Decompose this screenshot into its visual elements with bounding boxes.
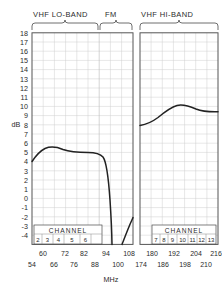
x-tick-lower: 88 bbox=[91, 261, 99, 268]
y-tick: 3 bbox=[24, 167, 28, 176]
band-brace-group: VHF LO-BAND FM VHF HI-BAND bbox=[32, 10, 218, 30]
x-tick-lower: 100 bbox=[112, 261, 124, 268]
y-tick: -3 bbox=[22, 222, 28, 231]
y-tick: 11 bbox=[21, 93, 28, 102]
right-channel-num: 11 bbox=[189, 237, 196, 243]
band-label-fm: FM bbox=[105, 10, 117, 19]
x-tick-upper: 180 bbox=[146, 250, 158, 257]
curve-group bbox=[32, 105, 218, 244]
y-tick: 4 bbox=[24, 157, 28, 166]
band-label-vhf-hi: VHF HI-BAND bbox=[141, 10, 194, 19]
frequency-response-chart: VHF LO-BAND FM VHF HI-BAND 18 17 16 15 1… bbox=[0, 0, 222, 289]
y-tick: 6 bbox=[24, 139, 28, 148]
x-tick-upper: 82 bbox=[80, 250, 88, 257]
x-axis-ticks-upper: 60 72 82 94 108 180 192 204 216 bbox=[39, 250, 222, 257]
y-tick: 8 bbox=[24, 121, 28, 130]
x-tick-lower: 186 bbox=[157, 261, 169, 268]
x-tick-upper: 108 bbox=[123, 250, 135, 257]
y-tick: 16 bbox=[20, 47, 28, 56]
x-tick-upper: 72 bbox=[61, 250, 69, 257]
y-tick: 7 bbox=[24, 130, 28, 139]
y-tick: 1 bbox=[24, 185, 28, 194]
y-tick: 5 bbox=[24, 148, 28, 157]
curve-fm-band bbox=[122, 218, 133, 245]
y-tick: 15 bbox=[20, 56, 28, 65]
band-label-vhf-lo: VHF LO-BAND bbox=[33, 10, 88, 19]
brace-vhf-lo bbox=[32, 20, 98, 30]
x-tick-lower: 76 bbox=[70, 261, 78, 268]
y-axis-ticks: 18 17 16 15 14 13 12 11 10 9 8 7 6 5 4 3… bbox=[20, 29, 28, 240]
y-tick: 14 bbox=[20, 65, 28, 74]
right-channel-box-group: CHANNEL 7 8 9 10 11 12 13 bbox=[152, 225, 216, 244]
x-tick-lower: 174 bbox=[135, 261, 147, 268]
right-panel-grid bbox=[140, 33, 218, 245]
x-axis-label: MHz bbox=[104, 275, 119, 284]
y-tick: -4 bbox=[22, 231, 28, 240]
y-tick: 0 bbox=[24, 194, 28, 203]
x-tick-upper: 216 bbox=[210, 250, 222, 257]
x-tick-lower: 66 bbox=[50, 261, 58, 268]
chart-svg: VHF LO-BAND FM VHF HI-BAND 18 17 16 15 1… bbox=[0, 0, 222, 289]
right-channel-num: 10 bbox=[179, 237, 186, 243]
x-tick-lower: 198 bbox=[179, 261, 191, 268]
x-tick-lower: 54 bbox=[28, 261, 36, 268]
x-tick-lower: 210 bbox=[200, 261, 212, 268]
curve-vhf-high-band bbox=[140, 105, 218, 126]
left-channel-box-group: CHANNEL 2 3 4 5 6 bbox=[34, 225, 102, 244]
left-panel-grid bbox=[32, 33, 133, 245]
x-tick-upper: 192 bbox=[168, 250, 180, 257]
x-tick-upper: 204 bbox=[190, 250, 202, 257]
brace-vhf-hi bbox=[140, 20, 218, 30]
y-tick: 2 bbox=[24, 176, 28, 185]
y-tick: 9 bbox=[24, 111, 28, 120]
brace-fm bbox=[100, 20, 132, 30]
y-axis-label: dB bbox=[12, 120, 21, 129]
right-channel-title: CHANNEL bbox=[165, 227, 204, 234]
right-channel-num: 13 bbox=[208, 237, 215, 243]
y-tick: 12 bbox=[20, 84, 28, 93]
y-tick: 13 bbox=[20, 75, 28, 84]
x-axis-ticks-lower: 54 66 76 88 100 174 186 198 210 bbox=[28, 261, 212, 268]
y-tick: 17 bbox=[20, 38, 28, 47]
y-tick: -2 bbox=[22, 213, 28, 222]
y-tick: 10 bbox=[20, 102, 28, 111]
x-tick-upper: 60 bbox=[39, 250, 47, 257]
x-tick-upper: 94 bbox=[102, 250, 110, 257]
y-tick: 18 bbox=[20, 29, 28, 38]
y-tick: -1 bbox=[22, 203, 28, 212]
right-channel-num: 12 bbox=[198, 237, 205, 243]
left-channel-title: CHANNEL bbox=[49, 227, 88, 234]
